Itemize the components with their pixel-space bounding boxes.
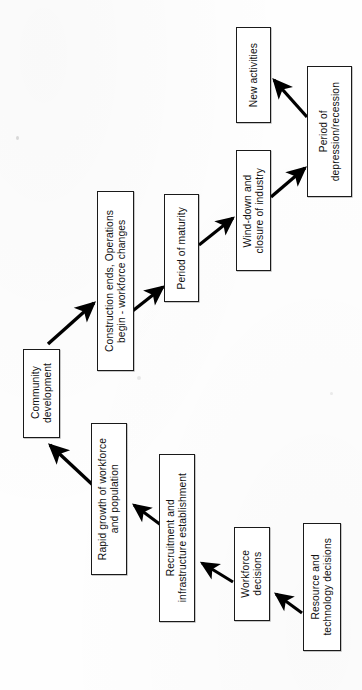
- edge-community-to-construction: [48, 303, 94, 344]
- node-label: Construction ends, Operations begin - wo…: [104, 210, 127, 352]
- node-label: Rapid growth of workforce and population: [97, 438, 120, 560]
- node-label: Resource and technology decisions: [310, 538, 333, 636]
- edge-resource-to-workforce: [276, 594, 302, 613]
- node-label: New activities: [248, 43, 260, 107]
- node-label: Wind-down and closure of industry: [242, 168, 265, 253]
- edge-winddown-to-depression: [271, 168, 305, 197]
- node-period-of-maturity[interactable]: Period of maturity: [164, 194, 199, 302]
- scan-speck: [16, 136, 19, 140]
- scan-speck: [137, 376, 141, 380]
- scan-speck: [330, 392, 333, 395]
- edge-rapidgrowth-to-community: [50, 445, 95, 487]
- diagram-canvas: New activities Period of depression/rece…: [0, 0, 362, 690]
- edge-construction-to-maturity: [130, 287, 163, 313]
- node-workforce-decisions[interactable]: Workforce decisions: [234, 527, 270, 621]
- node-label: Community development: [30, 363, 53, 423]
- node-period-of-depression-recession[interactable]: Period of depression/recession: [307, 66, 352, 197]
- node-community-development[interactable]: Community development: [23, 349, 60, 438]
- edge-maturity-to-winddown: [199, 218, 233, 245]
- node-label: Period of maturity: [176, 207, 188, 290]
- node-wind-down-and-closure-of-industry[interactable]: Wind-down and closure of industry: [236, 150, 271, 271]
- node-recruitment-and-infrastructure-establishment[interactable]: Recruitment and infrastructure establish…: [159, 454, 195, 622]
- node-construction-ends-operations-begin[interactable]: Construction ends, Operations begin - wo…: [97, 191, 134, 371]
- node-label: Workforce decisions: [240, 550, 263, 598]
- edge-workforce-to-recruitment: [202, 563, 233, 582]
- edge-depression-to-newactivities: [274, 80, 307, 117]
- node-label: Period of depression/recession: [318, 82, 341, 181]
- node-resource-and-technology-decisions[interactable]: Resource and technology decisions: [303, 523, 341, 651]
- node-new-activities[interactable]: New activities: [236, 27, 271, 123]
- node-label: Recruitment and infrastructure establish…: [165, 473, 188, 602]
- node-rapid-growth-of-workforce-and-population[interactable]: Rapid growth of workforce and population: [91, 423, 127, 575]
